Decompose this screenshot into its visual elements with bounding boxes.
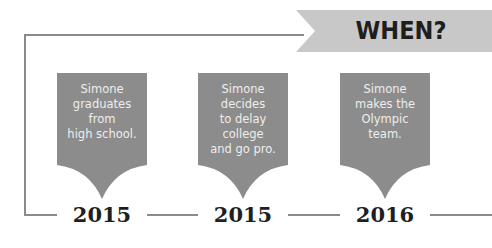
- frame-top-line: [24, 34, 304, 36]
- year-label-1: 2015: [57, 201, 147, 229]
- year-label-3: 2016: [340, 201, 430, 229]
- event-text: Simone makes the Olympic team.: [340, 82, 430, 142]
- event-text: Simone decides to delay college and go p…: [198, 82, 288, 157]
- year-label-2: 2015: [198, 201, 288, 229]
- frame-left-line: [24, 34, 26, 215]
- timeline-card-1: Simone graduates from high school.: [57, 73, 147, 199]
- event-text: Simone graduates from high school.: [57, 82, 147, 142]
- when-banner: WHEN?: [296, 10, 492, 52]
- timeline-card-2: Simone decides to delay college and go p…: [198, 73, 288, 199]
- timeline-card-3: Simone makes the Olympic team.: [340, 73, 430, 199]
- banner-title: WHEN?: [319, 10, 483, 52]
